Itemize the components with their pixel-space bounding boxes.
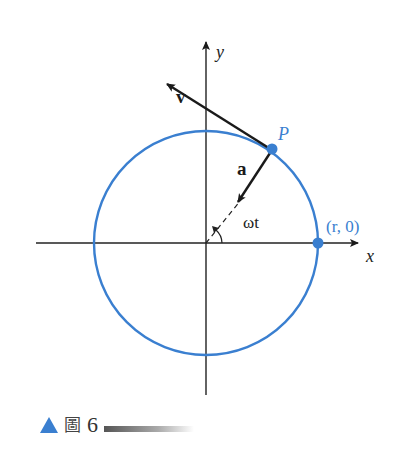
point-r0 bbox=[313, 238, 324, 249]
x-axis-label: x bbox=[365, 246, 374, 266]
point-p bbox=[267, 144, 278, 155]
start-point-label: (r, 0) bbox=[326, 217, 359, 236]
y-axis-label: y bbox=[214, 42, 224, 62]
circular-motion-diagram: y x v a P ωt (r, 0) bbox=[0, 0, 413, 451]
figure-char: 圖 bbox=[64, 417, 81, 434]
figure-number: 6 bbox=[87, 414, 98, 436]
acceleration-label: a bbox=[237, 158, 247, 179]
figure-caption: 圖 6 bbox=[40, 414, 194, 436]
angle-label: ωt bbox=[243, 213, 259, 232]
caption-bar bbox=[104, 426, 194, 432]
velocity-label: v bbox=[176, 86, 186, 107]
triangle-icon bbox=[40, 417, 58, 433]
radius-dashed bbox=[206, 200, 241, 243]
angle-arc bbox=[216, 230, 222, 243]
point-p-label: P bbox=[277, 124, 289, 144]
